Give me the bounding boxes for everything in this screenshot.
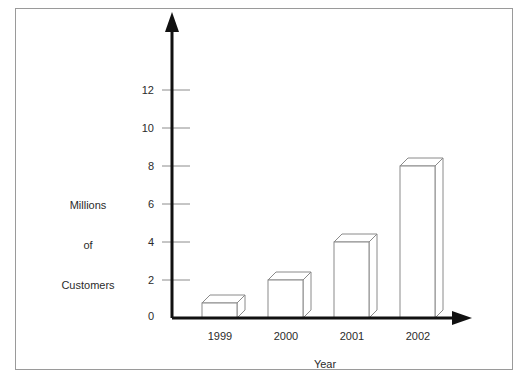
x-category-label-2000: 2000 bbox=[251, 330, 321, 343]
y-axis-title: Millions of Customers bbox=[42, 172, 134, 306]
x-category-label-2002: 2002 bbox=[383, 330, 453, 343]
y-axis-title-line-3: Customers bbox=[42, 279, 134, 292]
x-axis-arrow-icon bbox=[452, 311, 472, 325]
bar-2000 bbox=[268, 272, 311, 318]
bar-1999-front-face bbox=[202, 303, 237, 318]
bar-2002-side-face bbox=[435, 158, 443, 318]
x-category-label-1999: 1999 bbox=[185, 330, 255, 343]
bar-2002 bbox=[400, 158, 443, 318]
x-category-label-2001: 2001 bbox=[317, 330, 387, 343]
bar-2000-front-face bbox=[268, 280, 303, 318]
y-axis-arrow-icon bbox=[165, 12, 179, 32]
bar-2001 bbox=[334, 234, 377, 318]
bar-2000-side-face bbox=[303, 272, 311, 318]
bar-1999 bbox=[202, 295, 245, 318]
y-axis-title-line-1: Millions bbox=[42, 199, 134, 212]
y-tick-label-12: 12 bbox=[128, 84, 154, 97]
y-axis-title-line-2: of bbox=[42, 239, 134, 252]
bar-2001-side-face bbox=[369, 234, 377, 318]
bar-2001-front-face bbox=[334, 242, 369, 318]
y-tick-label-10: 10 bbox=[128, 122, 154, 135]
bar-2002-front-face bbox=[400, 166, 435, 318]
y-tick-label-0: 0 bbox=[128, 310, 154, 323]
y-axis-tick-marks bbox=[162, 90, 190, 280]
x-axis-title: Year bbox=[290, 358, 360, 371]
